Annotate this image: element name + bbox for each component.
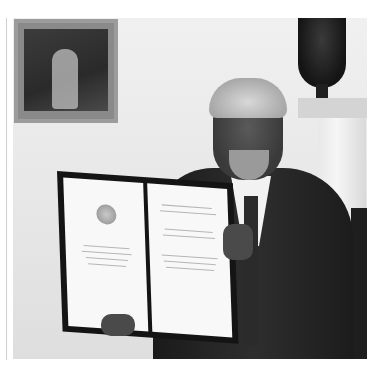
text-line (82, 251, 132, 256)
text-line (88, 263, 126, 267)
text-line (164, 261, 216, 266)
text-line (163, 234, 215, 239)
photograph (13, 18, 367, 359)
text-line (86, 257, 128, 261)
text-line (83, 245, 129, 249)
dark-fireplace-panel (351, 208, 367, 359)
text-line (162, 254, 218, 259)
urn-vase (298, 18, 346, 88)
framed-painting (14, 19, 118, 123)
text-line (160, 210, 216, 215)
page-border-line (6, 18, 7, 360)
medal-emblem-icon (96, 204, 117, 225)
diploma-right-page (147, 183, 232, 337)
painted-figure (52, 49, 78, 109)
right-hand (223, 224, 253, 260)
mantel-shelf (298, 98, 367, 118)
diploma-left-page (63, 177, 148, 331)
text-line (165, 229, 213, 233)
necktie (244, 196, 258, 346)
text-line (162, 204, 212, 209)
left-hand (101, 314, 135, 336)
open-diploma (57, 171, 238, 344)
text-line (166, 267, 214, 271)
painting-canvas (24, 29, 108, 111)
